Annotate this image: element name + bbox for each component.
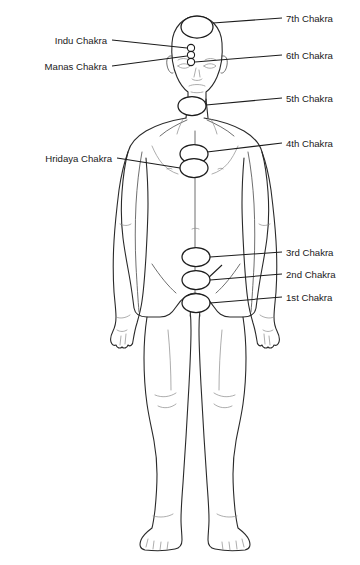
label-2nd-chakra: 2nd Chakra <box>286 269 336 280</box>
navel <box>192 228 199 229</box>
right-eye <box>204 64 216 69</box>
neck-shadow-left <box>177 119 183 134</box>
left-thigh-detail <box>168 330 171 390</box>
left-arm-outline <box>111 152 148 348</box>
left-knee-detail <box>155 393 176 408</box>
left-hip-crease <box>152 264 176 293</box>
label-6th-chakra: 6th Chakra <box>286 50 334 61</box>
label-indu-chakra: Indu Chakra <box>55 35 108 46</box>
right-eyebrow <box>205 59 216 61</box>
left-ankle-detail <box>153 514 173 517</box>
marker-crown-7th-chakra[interactable] <box>181 16 213 38</box>
chakra-diagram-page: 7th Chakra 6th Chakra 5th Chakra 4th Cha… <box>0 0 360 565</box>
left-clavicle <box>160 120 187 136</box>
label-3rd-chakra: 3rd Chakra <box>286 247 334 258</box>
leader-4th-chakra <box>207 143 282 152</box>
neck-right <box>206 99 208 118</box>
marker-throat-5th-chakra[interactable] <box>178 97 206 116</box>
label-7th-chakra: 7th Chakra <box>286 13 334 24</box>
neck-shadow-right <box>211 119 217 134</box>
left-toes <box>146 539 168 550</box>
mouth <box>189 85 205 87</box>
leader-1st-chakra <box>210 297 282 303</box>
label-hridaya-chakra: Hridaya Chakra <box>45 153 112 164</box>
left-hand-detail <box>116 315 130 345</box>
right-hand-detail <box>260 315 274 345</box>
right-ankle-detail <box>217 514 237 517</box>
label-4th-chakra: 4th Chakra <box>286 138 334 149</box>
right-toes <box>222 539 244 550</box>
label-manas-chakra: Manas Chakra <box>45 61 108 72</box>
marker-navel-3rd-chakra[interactable] <box>182 248 210 267</box>
left-pectoral <box>152 146 178 174</box>
leader-manas-chakra <box>112 56 187 66</box>
marker-indu-chakra[interactable] <box>187 44 194 51</box>
right-arm-outline <box>242 152 279 348</box>
marker-root-1st-chakra[interactable] <box>182 294 210 313</box>
right-clavicle <box>207 120 234 136</box>
nose <box>192 68 202 81</box>
right-leg-outline <box>199 296 250 551</box>
label-1st-chakra: 1st Chakra <box>286 292 333 303</box>
chin-crease <box>191 92 203 93</box>
marker-sacral-2nd-chakra[interactable] <box>182 271 210 290</box>
marker-hridaya-chakra[interactable] <box>180 159 208 178</box>
label-5th-chakra: 5th Chakra <box>286 93 334 104</box>
leader-3rd-chakra <box>210 252 282 257</box>
left-arm-inner-line <box>135 152 142 312</box>
leader-7th-chakra <box>213 18 282 23</box>
right-knee-detail <box>214 393 235 408</box>
right-thigh-detail <box>219 330 222 390</box>
chakra-body-diagram: 7th Chakra 6th Chakra 5th Chakra 4th Cha… <box>0 0 360 565</box>
right-arm-inner-line <box>248 152 255 312</box>
marker-manas-chakra[interactable] <box>187 51 194 58</box>
left-leg-outline <box>140 296 191 551</box>
leader-indu-chakra <box>112 40 187 48</box>
leader-hridaya-chakra <box>117 158 180 168</box>
left-eyebrow <box>178 59 189 61</box>
marker-ajna-6th-chakra[interactable] <box>187 58 194 65</box>
leader-5th-chakra <box>206 98 282 105</box>
